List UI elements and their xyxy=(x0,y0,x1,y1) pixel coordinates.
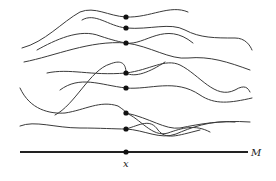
curve-5 xyxy=(47,63,250,92)
stalk-point xyxy=(123,40,128,45)
curve-1 xyxy=(22,10,188,48)
curve-8 xyxy=(55,62,165,115)
base-point-x xyxy=(123,149,128,154)
base-point-label: x xyxy=(123,159,129,169)
curve-3 xyxy=(37,33,193,50)
stalk-point xyxy=(123,70,128,75)
diagram: x M xyxy=(0,0,276,181)
stalk-point xyxy=(123,14,128,19)
curves-figure xyxy=(0,0,276,181)
stalk-point xyxy=(123,85,128,90)
curve-10 xyxy=(20,123,200,136)
base-line-label: M xyxy=(251,148,261,158)
stalk-point xyxy=(123,110,128,115)
stalk-point xyxy=(123,25,128,30)
curve-4 xyxy=(24,43,250,70)
stalk-point xyxy=(123,126,128,131)
